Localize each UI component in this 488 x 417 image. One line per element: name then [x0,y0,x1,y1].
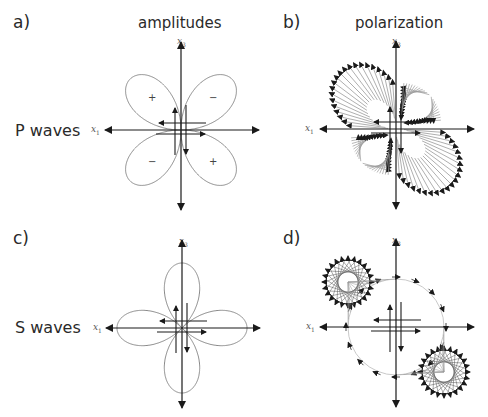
panel-c-s-amplitude-lobes [106,240,260,408]
panel-d-s-polarization [320,239,474,407]
panel-b-p-polarization [320,41,474,209]
panel-a-p-amplitude-lobes [105,42,259,210]
radiation-pattern-figure [0,0,488,417]
